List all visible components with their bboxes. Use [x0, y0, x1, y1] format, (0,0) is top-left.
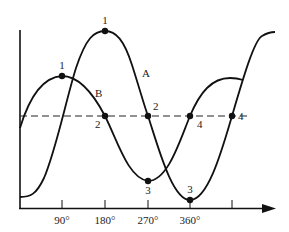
point-a3 [187, 197, 193, 203]
label-curve-a: A [142, 67, 150, 79]
label-a3: 3 [187, 183, 193, 195]
point-a2 [145, 113, 151, 119]
point-b2 [102, 113, 108, 119]
point-b4 [187, 113, 193, 119]
point-a4 [229, 113, 235, 119]
label-b3: 3 [145, 184, 151, 196]
tick-label-180: 180° [95, 214, 116, 226]
label-b1: 1 [59, 59, 65, 71]
curve-b [20, 76, 243, 181]
tick-label-90: 90° [54, 214, 69, 226]
tick-label-270: 270° [138, 214, 159, 226]
tick-label-360: 360° [180, 214, 201, 226]
point-a1 [102, 28, 108, 34]
label-curve-b: B [95, 87, 102, 99]
label-a2: 2 [153, 100, 159, 112]
label-b4: 4 [197, 118, 203, 130]
point-b1 [59, 73, 65, 79]
label-a4: 4 [238, 110, 244, 122]
label-b2: 2 [95, 118, 101, 130]
phase-diagram: 90° 180° 270° 360° 1 2 3 4 A 1 2 3 4 B [0, 0, 289, 232]
x-axis-arrowhead [262, 204, 276, 213]
label-a1: 1 [102, 14, 108, 26]
